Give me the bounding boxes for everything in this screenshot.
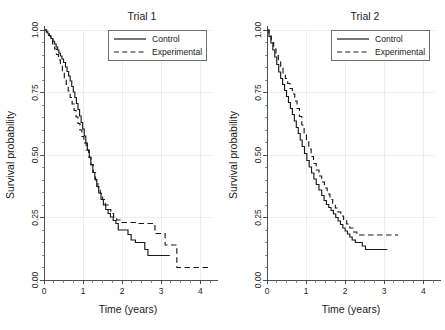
y-tick-label: 0.50 <box>30 146 40 163</box>
legend-label-control: Control <box>152 34 180 44</box>
x-tick-label: 0 <box>265 286 270 296</box>
x-tick-label: 3 <box>159 286 164 296</box>
y-tick-label: 0.00 <box>253 271 263 288</box>
gridlines <box>267 30 435 280</box>
x-tick-label: 1 <box>81 286 86 296</box>
y-tick-label: 0.50 <box>253 146 263 163</box>
curve-experimental <box>267 30 398 235</box>
y-tick-label: 0.25 <box>30 209 40 226</box>
y-axis-title: Survival probability <box>4 110 16 199</box>
y-tick-label: 0.25 <box>253 209 263 226</box>
x-tick-label: 2 <box>343 286 348 296</box>
curves <box>44 30 209 268</box>
x-tick-label: 4 <box>198 286 203 296</box>
legend-label-control: Control <box>375 34 403 44</box>
legend: ControlExperimental <box>108 30 206 60</box>
legend-label-experimental: Experimental <box>152 47 202 57</box>
curve-control <box>44 30 170 256</box>
x-axis-title: Time (years) <box>322 303 381 315</box>
axes: 012340.000.250.500.751.00 <box>30 21 218 296</box>
y-tick-label: 1.00 <box>253 21 263 38</box>
y-tick-label: 0.75 <box>253 84 263 101</box>
gridlines <box>44 30 212 280</box>
y-tick-label: 1.00 <box>30 21 40 38</box>
x-tick-label: 4 <box>421 286 426 296</box>
x-tick-label: 2 <box>120 286 125 296</box>
y-tick-label: 0.75 <box>30 84 40 101</box>
y-tick-label: 0.00 <box>30 271 40 288</box>
panel-title: Trial 1 <box>128 10 157 22</box>
legend-label-experimental: Experimental <box>375 47 425 57</box>
x-axis-title: Time (years) <box>99 303 158 315</box>
survival-figure: 012340.000.250.500.751.00Time (years)Sur… <box>0 0 445 330</box>
x-tick-label: 0 <box>42 286 47 296</box>
panel-title: Trial 2 <box>351 10 380 22</box>
panel-trial-1: 012340.000.250.500.751.00Time (years)Sur… <box>0 0 222 330</box>
x-tick-label: 1 <box>304 286 309 296</box>
axes: 012340.000.250.500.751.00 <box>253 21 441 296</box>
legend: ControlExperimental <box>331 30 429 60</box>
curves <box>267 30 398 250</box>
x-tick-label: 3 <box>382 286 387 296</box>
curve-control <box>267 30 387 250</box>
curve-experimental <box>44 30 209 268</box>
y-axis-title: Survival probability <box>227 110 239 199</box>
panel-trial-2: 012340.000.250.500.751.00Time (years)Sur… <box>223 0 445 330</box>
